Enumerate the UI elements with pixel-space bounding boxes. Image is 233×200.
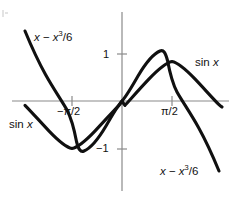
curve-label-sin-left: sin x	[9, 119, 33, 131]
sin-function-name: sin	[9, 118, 27, 130]
figure-canvas: 1 −1 −π/2 π/2 x − x3/6 x − x3/6 sin x si…	[0, 0, 233, 200]
cubic-divisor-six: /6	[63, 31, 73, 43]
cubic-minus-sign: −	[166, 165, 179, 177]
y-axis-tick-label-one: 1	[103, 49, 109, 60]
cubic-divisor-six: /6	[189, 165, 199, 177]
curve-label-sin-right: sin x	[195, 57, 219, 69]
sin-variable-x: x	[213, 56, 219, 68]
sin-variable-x: x	[27, 118, 33, 130]
half-pi-text: π/2	[63, 105, 80, 117]
curve-label-cubic-lower-right: x − x3/6	[160, 166, 198, 178]
x-axis-tick-label-positive-half-pi: π/2	[161, 106, 178, 117]
sin-x-curve	[25, 62, 222, 149]
curve-label-cubic-upper-left: x − x3/6	[34, 32, 72, 44]
y-axis-tick-label-negative-one: −1	[96, 143, 109, 154]
sin-function-name: sin	[195, 56, 213, 68]
cubic-minus-sign: −	[40, 31, 53, 43]
x-axis-tick-label-negative-half-pi: −π/2	[57, 106, 80, 117]
